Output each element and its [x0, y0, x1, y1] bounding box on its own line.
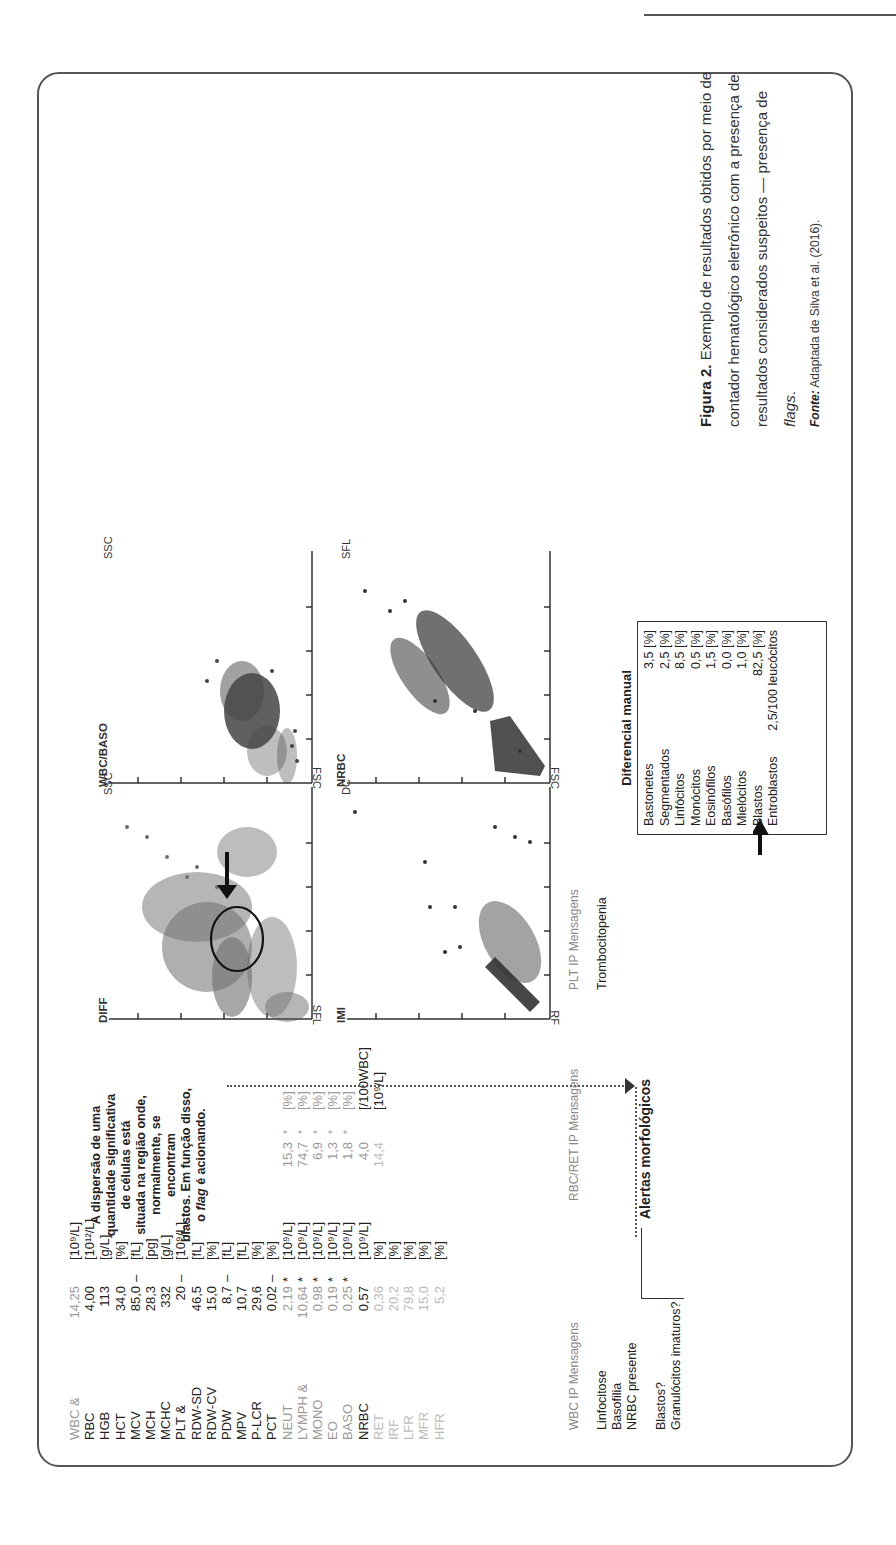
param-name: PCT [264, 1414, 279, 1440]
param-flag: * [295, 1277, 310, 1282]
param-val: 0,19 [325, 1286, 340, 1328]
param-name: LYMPH & [295, 1384, 310, 1440]
param-unit: [%] [249, 1241, 264, 1260]
differential-label: Basófilos [720, 775, 736, 826]
differential-row: Segmentados2,5 [%] [658, 630, 674, 826]
param-name: PLT & [173, 1405, 188, 1440]
differential-value: 8,5 [%] [673, 630, 689, 669]
param-flag: – [128, 1275, 143, 1282]
differential-value: 1,0 [%] [735, 630, 751, 669]
param-unit2: [%] [280, 1091, 295, 1110]
param-unit: [10⁹/L] [295, 1222, 310, 1260]
blastos-arrow [753, 831, 767, 855]
param-flag: – [173, 1275, 188, 1282]
differential-label: Segmentados [658, 749, 674, 826]
figure-caption: Figura 2. Exemplo de resultados obtidos … [692, 67, 826, 427]
param-val: 10,64 [295, 1286, 310, 1328]
param-unit: [10⁹/L] [356, 1222, 371, 1260]
alert-title: Alertas morfológicos [637, 1079, 653, 1219]
param-name: NEUT [280, 1405, 295, 1440]
scatter-diff [97, 777, 322, 1027]
param-ast: * [310, 1130, 325, 1134]
wbc-messages-list: Linfocitose Basofilia NRBC presente Blas… [595, 1301, 684, 1430]
differential-row: Basófilos0,0 [%] [720, 630, 736, 826]
param-name: LFR [401, 1415, 416, 1440]
differential-label: Bastonetes [642, 763, 658, 826]
param-name: IRF [386, 1419, 401, 1440]
param-val2: 6,9 [310, 1142, 325, 1178]
differential-value: 2,5/100 leucócitos [766, 630, 782, 731]
param-unit2: [%] [295, 1091, 310, 1110]
differential-value: 1,5 [%] [704, 630, 720, 669]
param-unit2: [/100WBC] [356, 1047, 371, 1110]
param-val: 20,2 [386, 1286, 401, 1328]
param-val: 0,36 [371, 1286, 386, 1328]
param-val: 5,2 [432, 1286, 447, 1328]
param-name: MCHC [158, 1401, 173, 1440]
differential-row: Monócitos0,5 [%] [689, 630, 705, 826]
param-val2: 1,3 [325, 1142, 340, 1178]
param-val: 34,0 [113, 1286, 128, 1328]
param-name: MCV [128, 1411, 143, 1440]
caption-source: Fonte: Adaptada de Silva et al. (2016). [804, 67, 826, 427]
param-val: 29,6 [249, 1286, 264, 1328]
param-unit: [%] [264, 1241, 279, 1260]
param-val: 4,00 [82, 1286, 97, 1328]
alert-bracket [641, 1228, 684, 1299]
param-name: RDW-CV [204, 1387, 219, 1440]
param-unit: [%] [371, 1241, 386, 1260]
param-name: HCT [113, 1413, 128, 1440]
param-flag: * [280, 1277, 295, 1282]
param-val2: 15,3 [280, 1142, 295, 1178]
param-name: P-LCR [249, 1401, 264, 1440]
scatter-wbc-baso [97, 541, 322, 791]
differential-table: Bastonetes3,5 [%]Segmentados2,5 [%]Linfó… [637, 621, 827, 835]
param-name: BASO [340, 1404, 355, 1440]
differential-title: Diferencial manual [619, 621, 634, 835]
param-ast: * [280, 1130, 295, 1134]
param-flag: – [219, 1275, 234, 1282]
differential-label: Mielócitos [735, 770, 751, 826]
param-val: 85,0 [128, 1286, 143, 1328]
differential-row: Entroblastos2,5/100 leucócitos [766, 630, 782, 826]
param-val: 0,02 [264, 1286, 279, 1328]
param-val: 46,5 [189, 1286, 204, 1328]
param-val: 2,19 [280, 1286, 295, 1328]
param-unit: [fL] [219, 1242, 234, 1260]
differential-value: 0,5 [%] [689, 630, 705, 669]
param-unit: [10⁹/L] [310, 1222, 325, 1260]
dotted-connector-arrowhead [625, 1078, 635, 1094]
param-unit: [10⁹/L] [67, 1222, 82, 1260]
param-unit: [10⁹/L] [280, 1222, 295, 1260]
header-rule [644, 14, 896, 16]
param-flag: – [264, 1275, 279, 1282]
param-unit2: [%] [325, 1091, 340, 1110]
param-val: 8,7 [219, 1286, 234, 1328]
param-name: RBC [82, 1413, 97, 1440]
y-axis-label: SFL [311, 1005, 323, 1025]
param-val2: 1,8 [340, 1142, 355, 1178]
param-unit: [%] [416, 1241, 431, 1260]
param-unit: [10⁹/L] [325, 1222, 340, 1260]
scatter-imi [335, 777, 560, 1027]
param-val: 0,25 [340, 1286, 355, 1328]
param-val: 0,57 [356, 1286, 371, 1328]
param-name: MPV [234, 1412, 249, 1440]
param-ast: * [295, 1130, 310, 1134]
param-name: RDW-SD [189, 1387, 204, 1440]
param-val: 28,3 [143, 1286, 158, 1328]
param-flag: * [325, 1277, 340, 1282]
param-val: 14,25 [67, 1286, 82, 1328]
differential-value: 82,5 [%] [751, 630, 767, 676]
param-name: WBC & [67, 1397, 82, 1440]
differential-label: Monócitos [689, 769, 705, 826]
scatter-nrbc [335, 541, 560, 791]
param-ast: * [340, 1130, 355, 1134]
differential-value: 3,5 [%] [642, 630, 658, 669]
differential-row: Linfócitos8,5 [%] [673, 630, 689, 826]
differential-label: Eosinófilos [704, 766, 720, 826]
differential-label: Linfócitos [673, 773, 689, 826]
param-val: 15,0 [204, 1286, 219, 1328]
param-unit: [10⁹/L] [340, 1222, 355, 1260]
param-val2: 74,7 [295, 1142, 310, 1178]
